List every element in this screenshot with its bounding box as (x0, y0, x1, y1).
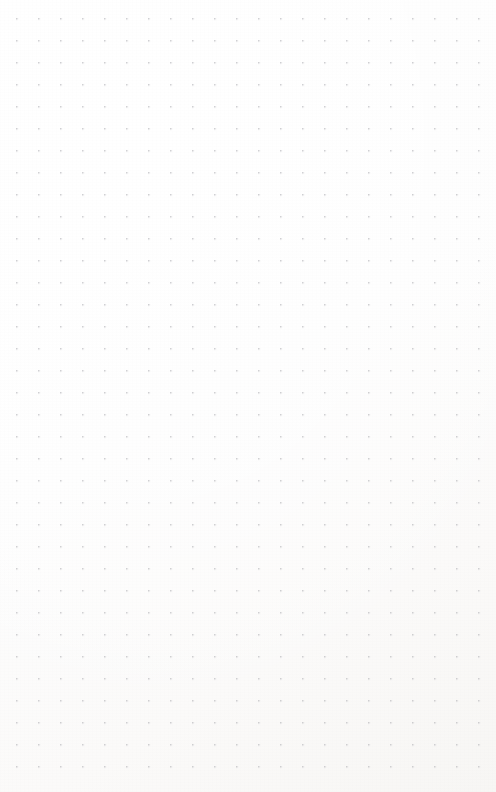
dot-grid-page (0, 0, 496, 792)
dot-grid (0, 0, 482, 770)
dot-grid-clip (0, 0, 482, 770)
